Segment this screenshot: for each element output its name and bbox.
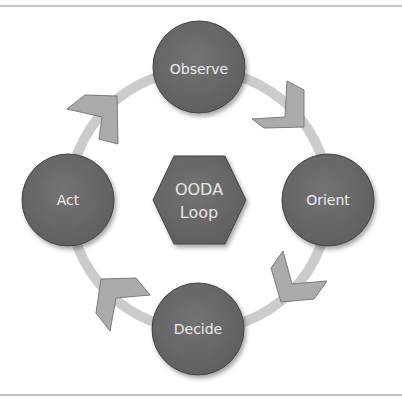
ooda-diagram: OODA Loop Observe Orient Decide Act bbox=[0, 0, 402, 399]
center-label-line2: Loop bbox=[180, 203, 218, 222]
node-decide-label: Decide bbox=[174, 321, 222, 337]
center-hexagon bbox=[153, 156, 246, 244]
node-observe-label: Observe bbox=[170, 61, 228, 77]
node-act-label: Act bbox=[57, 192, 80, 208]
node-orient-label: Orient bbox=[306, 192, 350, 208]
center-label-line1: OODA bbox=[175, 180, 223, 199]
